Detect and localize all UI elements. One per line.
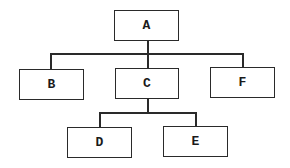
node-e: E [163,126,228,157]
connector-a-stem [147,40,149,54]
connector-to-f [242,53,244,67]
connector-c-stem [147,98,149,112]
node-b: B [19,69,84,100]
node-f: F [210,67,275,98]
node-c: C [115,68,179,99]
connector-to-d [99,112,101,127]
connector-c-bar [99,112,196,114]
connector-to-b [50,53,52,69]
node-d: D [67,127,132,158]
connector-to-e [195,112,197,126]
node-a: A [114,10,179,41]
connector-to-c [147,53,149,68]
